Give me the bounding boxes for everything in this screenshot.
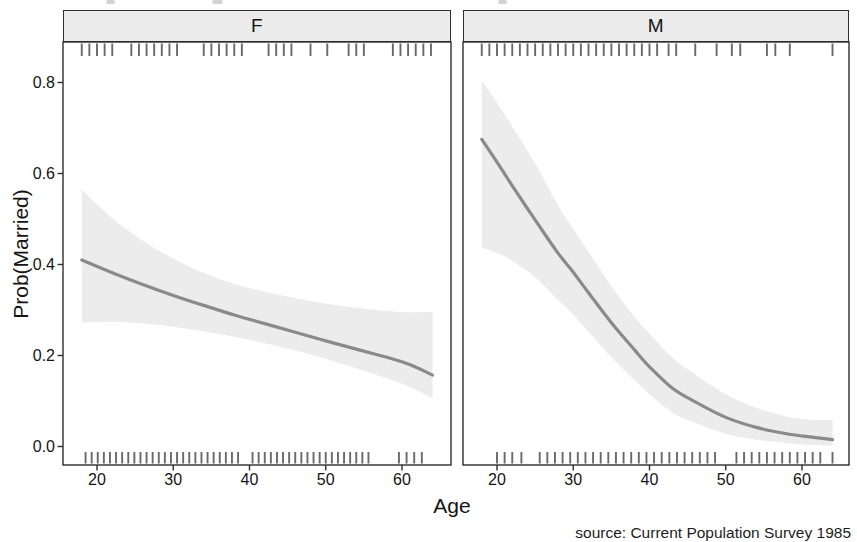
x-tick-label: 20: [479, 471, 515, 488]
x-axis-title: Age: [412, 494, 492, 518]
facet-strip-female: F: [63, 10, 451, 42]
x-tick-label: 60: [384, 471, 420, 488]
x-tick-label: 30: [155, 471, 191, 488]
facet-strip-male: M: [463, 10, 849, 42]
y-tick-label: 0.8: [11, 74, 55, 92]
y-axis-title: Prob(Married): [9, 164, 33, 344]
chart-canvas: [0, 0, 857, 542]
source-caption: source: Current Population Survey 1985: [575, 524, 851, 542]
facet-strip-label: M: [648, 15, 664, 37]
figure: F M Prob(Married) Age source: Current Po…: [0, 0, 857, 542]
x-tick-label: 30: [555, 471, 591, 488]
facet-strip-label: F: [251, 15, 263, 37]
y-tick-label: 0.6: [11, 165, 55, 183]
scan-artifact: [212, 0, 223, 4]
x-tick-label: 20: [79, 471, 115, 488]
scan-artifact: [498, 0, 507, 4]
y-tick-label: 0.0: [11, 438, 55, 456]
x-tick-label: 40: [232, 471, 268, 488]
y-tick-label: 0.2: [11, 347, 55, 365]
x-tick-label: 50: [708, 471, 744, 488]
x-tick-label: 50: [308, 471, 344, 488]
y-tick-label: 0.4: [11, 256, 55, 274]
x-tick-label: 60: [784, 471, 820, 488]
scan-artifact: [106, 0, 115, 4]
x-tick-label: 40: [632, 471, 668, 488]
